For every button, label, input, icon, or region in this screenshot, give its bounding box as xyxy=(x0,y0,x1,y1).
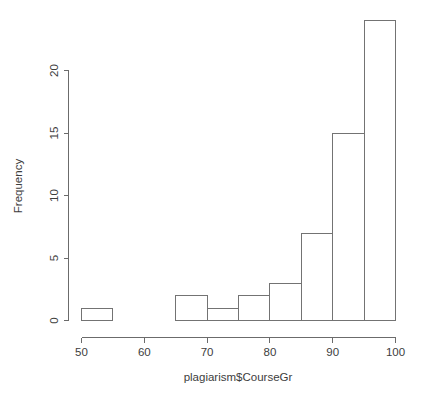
y-axis xyxy=(64,71,69,321)
x-tick-label: 60 xyxy=(138,346,151,358)
y-tick-label: 10 xyxy=(48,189,60,202)
histogram-bar xyxy=(333,133,364,321)
histogram-bar xyxy=(301,233,332,321)
x-tick-label: 80 xyxy=(264,346,277,358)
y-axis-title: Frequency xyxy=(12,159,24,214)
y-tick-label: 5 xyxy=(48,255,60,261)
histogram-bar xyxy=(207,308,238,321)
y-tick-label: 15 xyxy=(48,127,60,140)
histogram-bar xyxy=(82,308,113,321)
y-tick-labels: 05101520 xyxy=(48,64,60,324)
chart-canvas: 05101520 5060708090100 Frequency plagiar… xyxy=(0,0,437,408)
histogram-plot: 05101520 5060708090100 Frequency plagiar… xyxy=(0,0,437,408)
x-tick-label: 50 xyxy=(75,346,88,358)
x-axis xyxy=(82,338,396,343)
x-tick-labels: 5060708090100 xyxy=(75,346,405,358)
histogram-bar xyxy=(176,296,207,321)
x-axis-title: plagiarism$CourseGr xyxy=(184,371,293,383)
y-tick-label: 20 xyxy=(48,64,60,77)
x-tick-label: 90 xyxy=(326,346,339,358)
x-tick-label: 70 xyxy=(201,346,214,358)
x-tick-label: 100 xyxy=(386,346,405,358)
y-tick-label: 0 xyxy=(48,317,60,323)
histogram-bar xyxy=(270,283,301,321)
bars-group xyxy=(82,21,396,321)
histogram-bar xyxy=(239,296,270,321)
histogram-bar xyxy=(364,21,395,321)
